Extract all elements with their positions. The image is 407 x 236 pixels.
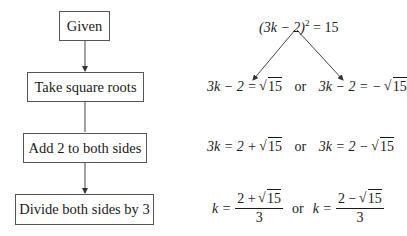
step-take-square-roots-box: Take square roots: [27, 72, 144, 102]
sqrt-symbol: 15: [260, 80, 282, 94]
fraction-negative: 2 − 15 3: [336, 192, 384, 225]
step-label: Divide both sides by 3: [19, 201, 150, 218]
sqrt-symbol: 15: [385, 80, 407, 94]
fraction-positive: 2 + 15 3: [235, 192, 283, 225]
equation-given: (3k − 2)2 = 15: [259, 19, 338, 35]
step-label: Add 2 to both sides: [29, 140, 142, 157]
step-label: Take square roots: [34, 79, 136, 96]
equation-square-roots: 3k − 2 = 15 or 3k − 2 = − 15: [207, 80, 407, 94]
arrow-to-positive-root: [253, 30, 295, 80]
step-given-box: Given: [59, 11, 110, 41]
step-add-two-box: Add 2 to both sides: [23, 133, 147, 163]
step-label: Given: [67, 18, 102, 35]
sqrt-symbol: 15: [372, 140, 394, 154]
sqrt-symbol: 15: [260, 140, 282, 154]
equation-divide-three: k = 2 + 15 3 or k = 2 − 15 3: [212, 192, 384, 225]
arrow-to-negative-root: [297, 30, 343, 80]
equation-add-two: 3k = 2 + 15 or 3k = 2 − 15: [207, 140, 394, 154]
step-divide-by-three-box: Divide both sides by 3: [15, 194, 154, 225]
